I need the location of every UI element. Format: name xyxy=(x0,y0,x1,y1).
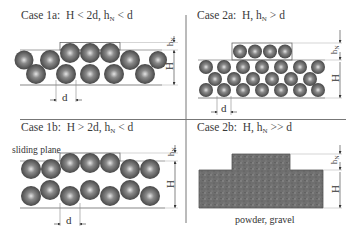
condition-text: H > 2d, h xyxy=(67,121,111,133)
condition-tail: >> d xyxy=(268,121,292,133)
condition-tail: < d xyxy=(115,9,133,21)
case-label: Case 1a: xyxy=(21,9,60,21)
case-2a-d-label: d xyxy=(221,102,227,114)
case-2a-hN-label: hN xyxy=(329,45,341,54)
case-1b-hN-label: hN xyxy=(166,147,178,156)
condition-tail: < d xyxy=(115,121,133,133)
case-label: Case 2a: xyxy=(197,9,236,21)
case-2a-diagram xyxy=(198,30,342,115)
case-2b-title: Case 2b: H, hN >> d xyxy=(197,121,292,135)
case-2b-diagram xyxy=(199,145,342,208)
case-2b-hN-label: hN xyxy=(329,155,341,164)
diagram-canvas xyxy=(0,0,354,237)
case-2a-title: Case 2a: H, hN > d xyxy=(197,9,285,23)
condition-text: H < 2d, h xyxy=(66,9,110,21)
sliding-plane-label: sliding plane xyxy=(12,145,61,155)
case-1a-hN-label: hN xyxy=(165,37,177,46)
powder-gravel-caption: powder, gravel xyxy=(235,214,295,225)
case-1b-H-label: H xyxy=(164,180,176,188)
case-2a-H-label: H xyxy=(329,74,341,82)
condition-text: H, h xyxy=(242,9,262,21)
case-1b-title: Case 1b: H > 2d, hN < d xyxy=(21,121,133,135)
case-1a-H-label: H xyxy=(163,62,175,70)
condition-text: H, h xyxy=(243,121,263,133)
case-1a-diagram xyxy=(15,36,179,102)
condition-tail: > d xyxy=(267,9,285,21)
case-1a-d-label: d xyxy=(62,91,68,103)
case-label: Case 2b: xyxy=(197,121,237,133)
case-1a-title: Case 1a: H < 2d, hN < d xyxy=(21,9,133,23)
case-1b-d-label: d xyxy=(66,214,72,226)
case-label: Case 1b: xyxy=(21,121,61,133)
case-1b-diagram xyxy=(20,145,178,226)
case-2b-H-label: H xyxy=(329,185,341,193)
gravel-block xyxy=(199,154,323,208)
